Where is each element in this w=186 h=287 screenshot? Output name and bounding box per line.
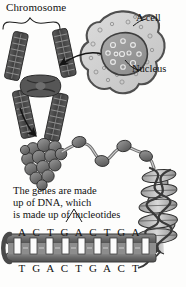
dna-top-strand-bases: ACTGACTGA (15, 226, 143, 238)
chromosome-figure (4, 28, 77, 142)
base-bottom-7: C (114, 262, 128, 274)
base-bottom-8: T (129, 262, 143, 274)
beaded-chain (62, 135, 154, 168)
gene-caption-line-2: up of DNA, which (13, 197, 120, 209)
base-bottom-5: G (86, 262, 100, 274)
base-bottom-2: A (43, 262, 57, 274)
base-bottom-0: T (15, 262, 29, 274)
base-top-4: A (72, 226, 86, 238)
base-top-3: G (58, 226, 72, 238)
base-bottom-6: A (100, 262, 114, 274)
base-top-1: C (29, 226, 43, 238)
dna-ladder (3, 234, 156, 262)
base-top-0: A (15, 226, 29, 238)
chromosome-bracket (3, 18, 60, 29)
base-bottom-1: G (29, 262, 43, 274)
base-top-6: T (100, 226, 114, 238)
dna-bottom-strand-bases: TGACTGACT (15, 262, 143, 274)
diagram-artwork (0, 0, 186, 287)
base-bottom-3: C (58, 262, 72, 274)
diagram-canvas: Chromosome A cell Nucleus The genes are … (0, 0, 186, 287)
chromosome-label: Chromosome (6, 1, 66, 13)
nucleosome-cluster (20, 138, 66, 190)
base-top-2: T (43, 226, 57, 238)
base-top-7: G (114, 226, 128, 238)
nucleotide-rungs (14, 238, 149, 254)
nucleus-label: Nucleus (132, 63, 166, 75)
base-top-8: A (129, 226, 143, 238)
base-bottom-4: T (72, 262, 86, 274)
cell-label: A cell (136, 12, 161, 24)
gene-caption-line-3: is made up of nucleotides (13, 209, 120, 221)
gene-caption: The genes are made up of DNA, which is m… (13, 185, 120, 220)
base-top-5: C (86, 226, 100, 238)
centromere (20, 75, 61, 97)
gene-caption-line-1: The genes are made (13, 185, 120, 197)
